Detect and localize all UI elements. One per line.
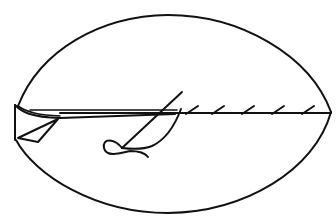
diagram-svg bbox=[0, 0, 336, 221]
stitch-diagram bbox=[0, 0, 336, 221]
needle bbox=[122, 92, 182, 148]
